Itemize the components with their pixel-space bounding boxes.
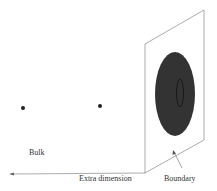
arrowhead-icon bbox=[9, 173, 14, 176]
boundary-disk bbox=[155, 52, 195, 136]
extra-dimension-label: Extra dimension bbox=[79, 174, 132, 183]
pointer-arrowhead-icon bbox=[173, 150, 177, 155]
boundary-label: Boundary bbox=[164, 174, 196, 183]
bulk-point-2 bbox=[98, 104, 102, 108]
bulk-point-1 bbox=[21, 106, 25, 110]
diagram-canvas bbox=[0, 0, 217, 191]
bulk-label: Bulk bbox=[29, 148, 45, 157]
